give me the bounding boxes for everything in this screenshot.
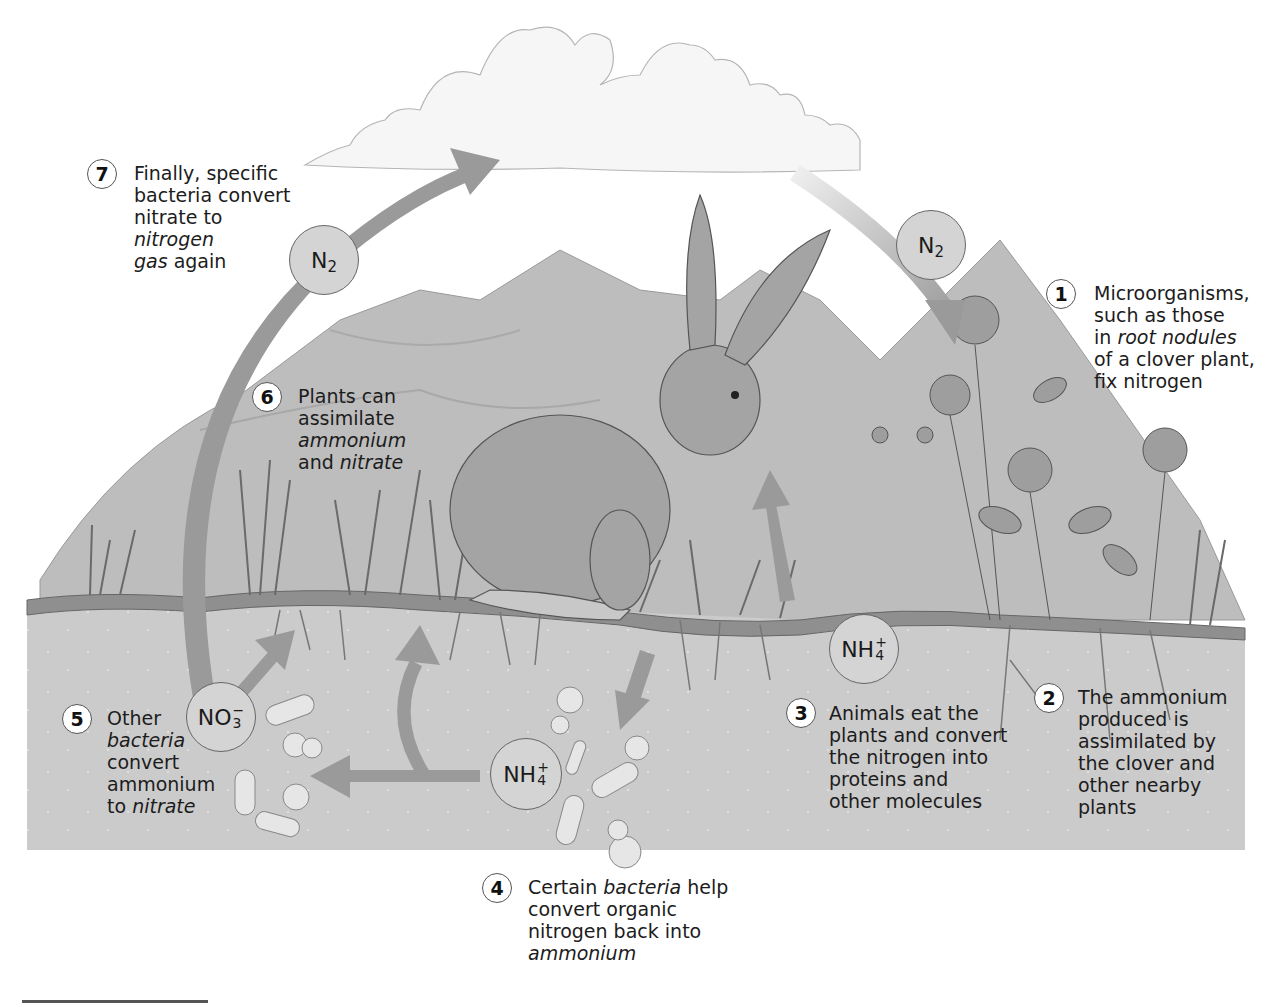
label-line: assimilated by <box>1078 730 1228 752</box>
label-line: other molecules <box>829 790 1008 812</box>
label-line: ammonium <box>298 429 406 451</box>
label-line: Finally, specific <box>134 162 290 184</box>
chem-subscript: 4 <box>537 774 549 787</box>
step-badge-7: 7 <box>87 159 117 189</box>
step-label-4: Certain bacteria helpconvert organicnitr… <box>528 876 728 964</box>
step-badge-2: 2 <box>1034 683 1064 713</box>
step-label-7: Finally, specificbacteria convertnitrate… <box>134 162 290 272</box>
label-line: ammonium <box>528 942 728 964</box>
label-line: nitrogen back into <box>528 920 728 942</box>
label-line: fix nitrogen <box>1094 370 1255 392</box>
label-line: gas again <box>134 250 290 272</box>
label-line: in root nodules <box>1094 326 1255 348</box>
nitrogen-gas-circle-right: N2 <box>896 210 966 280</box>
step-label-5: Otherbacteriaconvertammoniumto nitrate <box>107 707 215 817</box>
chem-charge: +4 <box>537 761 549 787</box>
nitrogen-gas-circle-left: N2 <box>289 225 359 295</box>
step-badge-4: 4 <box>482 873 512 903</box>
label-line: Plants can <box>298 385 406 407</box>
label-line: assimilate <box>298 407 406 429</box>
chem-formula: NH <box>503 762 536 787</box>
step-badge-3: 3 <box>786 698 816 728</box>
step-badge-1: 1 <box>1046 279 1076 309</box>
nitrogen-cycle-illustration <box>0 0 1280 1004</box>
label-line: plants and convert <box>829 724 1008 746</box>
label-line: bacteria convert <box>134 184 290 206</box>
chem-subscript: 3 <box>233 717 245 730</box>
ammonium-circle-right: NH+4 <box>829 614 899 684</box>
chem-subscript: 2 <box>934 243 944 261</box>
label-line: Animals eat the <box>829 702 1008 724</box>
label-line: Microorganisms, <box>1094 282 1255 304</box>
step-badge-5: 5 <box>62 704 92 734</box>
label-line: nitrogen <box>134 228 290 250</box>
chem-charge: +4 <box>875 636 887 662</box>
step-label-6: Plants canassimilateammoniumand nitrate <box>298 385 406 473</box>
label-line: the clover and <box>1078 752 1228 774</box>
label-line: convert <box>107 751 215 773</box>
chem-formula: NH <box>841 637 874 662</box>
ammonium-circle-center: NH+4 <box>490 738 562 810</box>
label-line: nitrate to <box>134 206 290 228</box>
label-line: and nitrate <box>298 451 406 473</box>
label-line: convert organic <box>528 898 728 920</box>
label-line: proteins and <box>829 768 1008 790</box>
chem-formula: N <box>311 248 327 273</box>
label-line: of a clover plant, <box>1094 348 1255 370</box>
label-line: Certain bacteria help <box>528 876 728 898</box>
step-badge-6: 6 <box>252 382 282 412</box>
label-line: other nearby <box>1078 774 1228 796</box>
label-line: to nitrate <box>107 795 215 817</box>
chem-formula: N <box>918 233 934 258</box>
chem-charge: −3 <box>233 704 245 730</box>
step-label-3: Animals eat theplants and convertthe nit… <box>829 702 1008 812</box>
label-line: the nitrogen into <box>829 746 1008 768</box>
label-line: bacteria <box>107 729 215 751</box>
label-line: ammonium <box>107 773 215 795</box>
chem-subscript: 4 <box>875 649 887 662</box>
label-line: produced is <box>1078 708 1228 730</box>
label-line: The ammonium <box>1078 686 1228 708</box>
chem-subscript: 2 <box>327 258 337 276</box>
footer-rule <box>22 1000 208 1003</box>
label-line: Other <box>107 707 215 729</box>
step-label-2: The ammoniumproduced isassimilated bythe… <box>1078 686 1228 818</box>
step-label-1: Microorganisms,such as thosein root nodu… <box>1094 282 1255 392</box>
label-line: plants <box>1078 796 1228 818</box>
label-line: such as those <box>1094 304 1255 326</box>
cloud <box>305 27 860 172</box>
